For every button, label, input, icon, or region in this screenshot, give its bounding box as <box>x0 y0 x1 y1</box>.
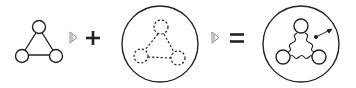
wavy-triangle-in-circle <box>263 6 339 82</box>
node-bottom-right <box>312 50 326 64</box>
graph-equation-diagram <box>0 0 356 88</box>
perturbation-arrow-icon <box>316 29 332 37</box>
node-top <box>33 21 46 34</box>
dashed-node-top <box>154 20 168 34</box>
enclosing-circle <box>263 6 339 82</box>
wavy-edge-bottom <box>289 56 312 59</box>
dashed-node-bottom-right <box>171 51 185 65</box>
node-bottom-right <box>50 50 63 63</box>
node-bottom-left <box>16 50 29 63</box>
arrow-right-icon <box>70 32 77 43</box>
arrow-right-icon <box>212 32 219 43</box>
dashed-triangle-in-circle <box>122 6 198 82</box>
node-bottom-left <box>276 50 290 64</box>
enclosing-circle <box>122 6 198 82</box>
dashed-node-bottom-left <box>134 49 148 63</box>
plus-operator-icon <box>86 31 100 45</box>
equals-operator-icon <box>230 35 244 42</box>
node-top <box>294 19 308 33</box>
solid-triangle-graph <box>16 21 63 63</box>
